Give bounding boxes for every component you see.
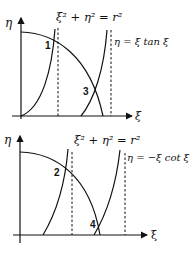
bottom-panel: η ξ ξ² + η² = r² η = −ξ cot ξ 2 4 [4, 133, 190, 243]
top-circle-equation: ξ² + η² = r² [56, 10, 123, 24]
intersection-label-4: 4 [90, 219, 96, 230]
bottom-circle-equation: ξ² + η² = r² [74, 133, 141, 147]
intersection-label-1: 1 [45, 40, 51, 51]
bottom-x-label: ξ [151, 229, 157, 242]
diagram-canvas: η ξ ξ² + η² = r² η = ξ tan ξ 1 3 η ξ ξ² … [0, 0, 195, 253]
top-x-label: ξ [135, 110, 142, 123]
top-circle-arc [21, 32, 103, 116]
top-curve-equation: η = ξ tan ξ [114, 36, 169, 47]
intersection-label-3: 3 [83, 86, 89, 97]
intersection-label-2: 2 [54, 167, 60, 178]
top-y-label: η [5, 16, 13, 30]
top-panel: η ξ ξ² + η² = r² η = ξ tan ξ 1 3 [5, 10, 169, 123]
top-tan-branch-2 [81, 30, 107, 116]
bottom-curve-equation: η = −ξ cot ξ [127, 152, 190, 163]
bottom-y-label: η [4, 133, 12, 147]
